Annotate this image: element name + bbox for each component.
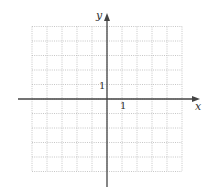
x-tick-label: 1 [120,100,126,111]
y-axis-arrow-icon [104,13,110,21]
x-axis-label: x [195,100,202,113]
coordinate-plane: y x 1 1 [0,0,209,194]
y-axis-label: y [95,9,103,22]
y-tick-label: 1 [99,80,105,91]
